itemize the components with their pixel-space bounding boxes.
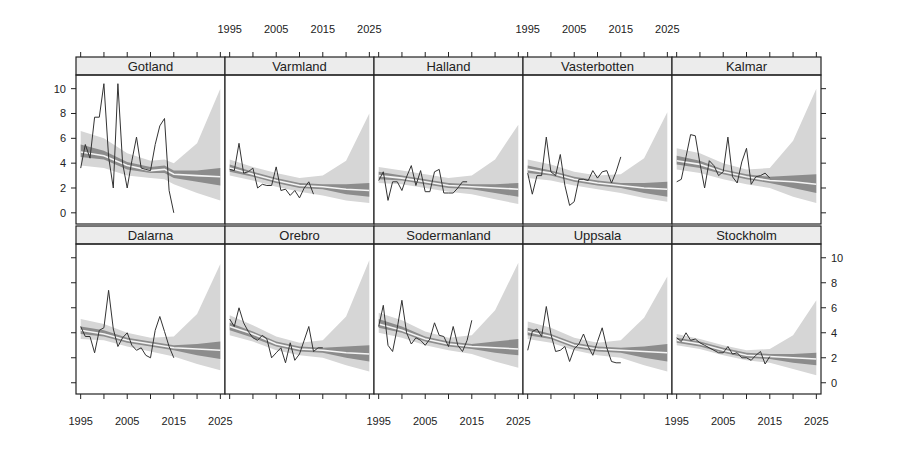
- panel-strip-label: Stockholm: [716, 228, 777, 243]
- panel-strip-label: Halland: [426, 59, 470, 74]
- panel-strip-label: Orebro: [279, 228, 319, 243]
- panel-sodermanland: Sodermanland: [374, 226, 523, 394]
- x-tick-label-bottom: 2025: [208, 415, 232, 427]
- x-tick-label-bottom: 2015: [460, 415, 484, 427]
- y-tick-label-left: 0: [60, 207, 66, 219]
- x-tick-label-bottom: 2005: [711, 415, 735, 427]
- panel-kalmar: Kalmar: [672, 57, 821, 224]
- x-tick-label-top: 2005: [264, 23, 288, 35]
- x-tick-label-bottom: 2005: [115, 415, 139, 427]
- plot-area: [374, 75, 523, 224]
- panel-strip-label: Gotland: [128, 59, 174, 74]
- panel-stockholm: Stockholm: [672, 226, 821, 394]
- panel-strip-label: Vasterbotten: [561, 59, 634, 74]
- x-tick-label-top: 2015: [609, 23, 633, 35]
- y-tick-label-right: 4: [831, 327, 837, 339]
- x-tick-label-top: 2015: [311, 23, 335, 35]
- y-tick-label-right: 8: [831, 277, 837, 289]
- y-tick-label-right: 2: [831, 352, 837, 364]
- y-tick-label-right: 0: [831, 377, 837, 389]
- panel-orebro: Orebro: [225, 226, 374, 394]
- x-tick-label-bottom: 1995: [664, 415, 688, 427]
- x-tick-label-bottom: 1995: [366, 415, 390, 427]
- panel-strip-label: Varmland: [272, 59, 327, 74]
- x-tick-label-bottom: 1995: [68, 415, 92, 427]
- x-tick-label-top: 1995: [515, 23, 539, 35]
- x-tick-label-bottom: 2005: [413, 415, 437, 427]
- x-tick-label-top: 2025: [655, 23, 679, 35]
- lattice-panel-chart: GotlandVarmlandHallandVasterbottenKalmar…: [0, 0, 897, 450]
- y-tick-label-left: 10: [54, 83, 66, 95]
- panel-strip-label: Dalarna: [128, 228, 174, 243]
- x-tick-label-top: 2005: [562, 23, 586, 35]
- x-tick-label-bottom: 2025: [804, 415, 828, 427]
- y-tick-label-left: 4: [60, 157, 66, 169]
- y-tick-label-left: 8: [60, 107, 66, 119]
- panel-varmland: Varmland: [225, 57, 374, 224]
- x-tick-label-top: 1995: [217, 23, 241, 35]
- panel-halland: Halland: [374, 57, 523, 224]
- panel-gotland: Gotland: [76, 57, 225, 224]
- plot-area: [672, 244, 821, 394]
- panels-layer: GotlandVarmlandHallandVasterbottenKalmar…: [76, 57, 821, 394]
- x-tick-label-bottom: 2015: [162, 415, 186, 427]
- panel-strip-label: Kalmar: [726, 59, 768, 74]
- y-tick-label-right: 10: [831, 252, 843, 264]
- panel-uppsala: Uppsala: [523, 226, 672, 394]
- y-tick-label-left: 6: [60, 132, 66, 144]
- y-tick-label-right: 6: [831, 302, 837, 314]
- panel-dalarna: Dalarna: [76, 226, 225, 394]
- panel-strip-label: Sodermanland: [406, 228, 491, 243]
- y-tick-label-left: 2: [60, 182, 66, 194]
- x-tick-label-bottom: 2015: [758, 415, 782, 427]
- x-tick-label-bottom: 2025: [506, 415, 530, 427]
- x-tick-label-top: 2025: [357, 23, 381, 35]
- panel-vasterbotten: Vasterbotten: [523, 57, 672, 224]
- panel-strip-label: Uppsala: [574, 228, 622, 243]
